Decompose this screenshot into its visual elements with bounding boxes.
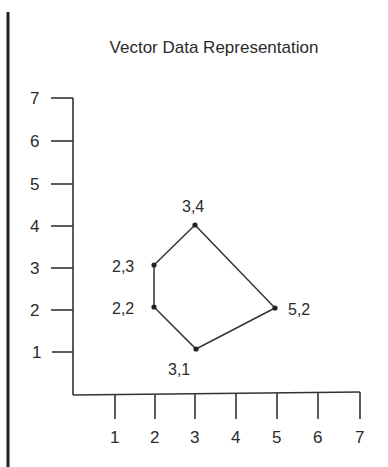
point-label: 3,4: [182, 198, 204, 215]
vertex-point: [192, 222, 197, 227]
y-tick-label: 4: [30, 217, 39, 236]
x-tick-label: 1: [110, 428, 119, 447]
vertices: [151, 222, 277, 351]
x-tick-label: 6: [313, 428, 322, 447]
y-tick-labels: 7 6 5 4 3 2 1: [30, 89, 41, 362]
chart-title: Vector Data Representation: [0, 38, 388, 58]
chart-figure: 7 6 5 4 3 2 1 1 2 3 4 5 6 7: [0, 0, 388, 467]
x-ticks: [115, 392, 360, 419]
y-tick-label: 1: [32, 343, 41, 362]
x-tick-label: 7: [355, 428, 364, 447]
vertex-point: [151, 304, 156, 309]
x-tick-label: 5: [272, 428, 281, 447]
chart-svg: 7 6 5 4 3 2 1 1 2 3 4 5 6 7: [0, 0, 388, 467]
y-tick-label: 5: [30, 175, 39, 194]
vertex-point: [272, 305, 277, 310]
point-label: 2,3: [112, 258, 134, 275]
point-label: 5,2: [288, 301, 310, 318]
x-tick-labels: 1 2 3 4 5 6 7: [110, 428, 364, 447]
x-tick-label: 2: [150, 428, 159, 447]
y-ticks: [51, 98, 73, 352]
x-axis: [73, 392, 360, 395]
y-tick-label: 3: [30, 259, 39, 278]
y-tick-label: 2: [30, 301, 39, 320]
point-label: 2,2: [112, 300, 134, 317]
x-tick-label: 4: [231, 428, 240, 447]
vertex-point: [151, 262, 156, 267]
point-label: 3,1: [168, 361, 190, 378]
point-labels: 3,4 2,3 2,2 5,2 3,1: [112, 198, 310, 378]
vector-polygon: [154, 225, 275, 349]
y-tick-label: 7: [30, 89, 39, 108]
x-tick-label: 3: [190, 428, 199, 447]
vertex-point: [193, 346, 198, 351]
y-tick-label: 6: [30, 132, 39, 151]
